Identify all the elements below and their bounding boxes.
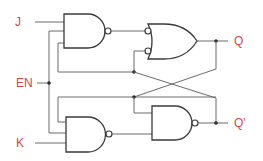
nand-gate-bottom-right — [152, 106, 192, 140]
or-second-input-wire — [134, 51, 145, 72]
k-label: K — [16, 137, 24, 149]
nand-gate-top-left — [64, 14, 105, 48]
nand-bottom-right-bubble — [192, 120, 198, 126]
q-label: Q — [234, 35, 243, 47]
en-junction-dot — [47, 81, 51, 85]
nand-top-left-bubble — [105, 28, 111, 34]
qbar-label: Q' — [234, 117, 246, 129]
j-label: J — [15, 16, 21, 28]
en-label: EN — [16, 77, 33, 89]
nand4-first-input-wire — [134, 97, 152, 113]
nand-bottom-left-bubble — [106, 131, 112, 137]
qbar-junction-dot — [214, 121, 218, 125]
or-input-bubble-bottom — [145, 48, 151, 54]
or-input-bubble-top — [145, 28, 151, 34]
circuit-diagram — [0, 0, 263, 161]
or-gate-top-right — [148, 24, 197, 59]
nand-gate-bottom-left — [66, 117, 106, 152]
